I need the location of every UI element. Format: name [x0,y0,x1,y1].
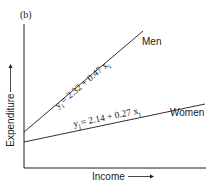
x-axis-label-group: Income [92,171,154,182]
diagram-canvas: (b) Expenditure Income Men yi= 2.32 + 0.… [0,0,216,185]
men-label: Men [142,36,161,47]
x-axis-arrow-icon [150,175,154,179]
men-equation: yi= 2.32 + 0.47 xi [53,59,113,113]
women-label: Women [170,107,204,118]
y-axis-label-group: Expenditure [5,64,16,147]
svg-text:yj= 2.14 + 0.27 xi: yj= 2.14 + 0.27 xi [72,105,141,132]
y-axis-arrow-icon [9,64,13,68]
panel-label: (b) [20,9,32,21]
women-equation: yj= 2.14 + 0.27 xi [72,105,141,132]
x-axis-label: Income [92,171,125,182]
y-axis-label: Expenditure [5,93,16,147]
women-eq-rhs-sub: i [138,110,142,118]
men-eq-rhs: = 2.32 + 0.47 x [59,60,110,105]
svg-text:yi= 2.32 + 0.47 xi: yi= 2.32 + 0.47 xi [53,59,113,113]
